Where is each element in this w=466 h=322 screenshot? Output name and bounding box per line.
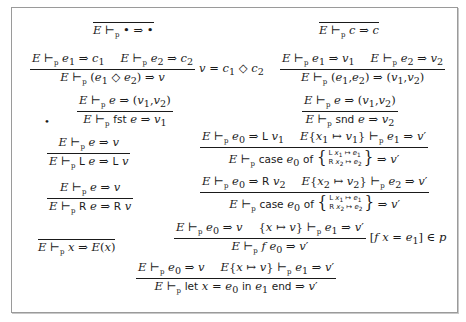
rule-var: E ⊢p x ⇒ E(x)	[38, 239, 115, 256]
side-condition: [f x = e1] ∈ p	[370, 232, 446, 246]
rule-case-l: E ⊢p e0 ⇒ L v1 E{x1 ↦ v1} ⊢p e1 ⇒ v′ E ⊢…	[200, 131, 428, 169]
rule-unit: E ⊢p • ⇒ •	[93, 22, 154, 39]
rule-let: E ⊢p e0 ⇒ v E{x ↦ v} ⊢p e1 ⇒ v′ E ⊢p let…	[136, 262, 336, 296]
rule-fst: E ⊢p e ⇒ (v1,v2) E ⊢p fst e ⇒ v1	[77, 95, 173, 129]
rule-inr: E ⊢p e ⇒ v E ⊢p R e ⇒ R v	[47, 182, 133, 216]
side-condition: v = c1 ◇ c2	[199, 63, 264, 77]
rule-const: E ⊢p c ⇒ c	[319, 22, 379, 39]
rule-pair: E ⊢p e1 ⇒ v1 E ⊢p e2 ⇒ v2 E ⊢p (e1,e2) ⇒…	[280, 53, 445, 87]
rule-case-r: E ⊢p e0 ⇒ R v2 E{x2 ↦ v2} ⊢p e2 ⇒ v′ E ⊢…	[200, 176, 429, 214]
rule-snd: E ⊢p e ⇒ (v1,v2) E ⊢p snd e ⇒ v2	[302, 95, 398, 129]
rule-inl: E ⊢p e ⇒ v E ⊢p L e ⇒ L v	[47, 137, 130, 171]
bullet-marker: •	[44, 116, 50, 127]
rule-binop: E ⊢p e1 ⇒ c1 E ⊢p e2 ⇒ c2 E ⊢p (e1 ◇ e2)…	[30, 53, 264, 87]
rule-app: E ⊢p e0 ⇒ v {x ↦ v} ⊢p e1 ⇒ v′ E ⊢p f e0…	[174, 222, 446, 256]
